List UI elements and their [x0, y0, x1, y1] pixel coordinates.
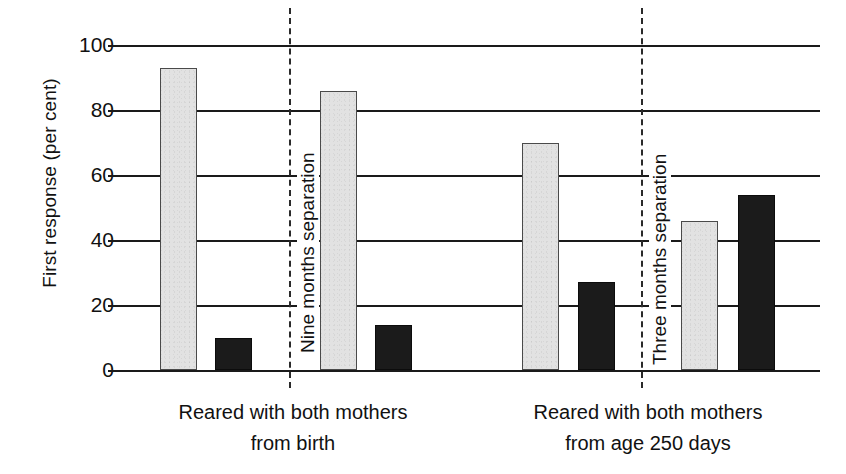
bar-7-dark	[738, 195, 775, 371]
tickmark-20	[108, 305, 122, 307]
separator-line-nine-months	[289, 8, 291, 388]
tickmark-100	[108, 45, 122, 47]
category-caption-group1-line1: Reared with both mothers	[148, 397, 438, 428]
separator-line-three-months	[641, 8, 643, 388]
category-caption-group1: Reared with both mothers from birth	[148, 397, 438, 459]
gridline-80	[122, 110, 820, 112]
bar-5-dark	[578, 282, 615, 370]
bar-4-light	[522, 143, 559, 371]
plot-area	[122, 45, 820, 370]
chart-figure: First response (per cent) 100 80 60 40 2…	[0, 0, 846, 474]
bar-6-light	[681, 221, 718, 371]
bar-1-dark	[215, 338, 252, 371]
tickmark-60	[108, 175, 122, 177]
y-tick-100: 100	[48, 34, 114, 55]
y-tick-0: 0	[48, 359, 114, 380]
bar-2-light	[320, 91, 357, 371]
y-axis-tick-labels: 100 80 60 40 20 0	[48, 0, 114, 474]
tickmark-80	[108, 110, 122, 112]
tickmark-40	[108, 240, 122, 242]
y-tick-40: 40	[48, 229, 114, 250]
y-tick-20: 20	[48, 294, 114, 315]
separator-label-nine-months: Nine months separation	[297, 149, 319, 356]
gridline-60	[122, 175, 820, 177]
gridline-100	[122, 45, 820, 47]
category-caption-group2: Reared with both mothers from age 250 da…	[503, 397, 793, 459]
tickmark-0	[108, 370, 122, 372]
bar-0-light	[160, 68, 197, 370]
category-caption-group2-line1: Reared with both mothers	[503, 397, 793, 428]
category-caption-group1-line2: from birth	[148, 428, 438, 459]
bar-3-dark	[375, 325, 412, 371]
category-caption-group2-line2: from age 250 days	[503, 428, 793, 459]
axis-baseline-0	[122, 370, 820, 372]
y-tick-60: 60	[48, 164, 114, 185]
separator-label-three-months: Three months separation	[649, 151, 671, 368]
y-tick-80: 80	[48, 99, 114, 120]
